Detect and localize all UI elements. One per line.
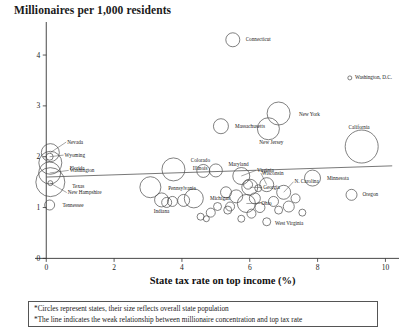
state-label: Illinois: [193, 165, 208, 171]
bubble-california[interactable]: [345, 130, 378, 163]
footnote-circles: *Circles represent states, their size re…: [34, 304, 372, 315]
bubble-unlabeled[interactable]: [203, 216, 209, 222]
state-label: Massachusetts: [235, 123, 265, 129]
bubble-florida[interactable]: [39, 151, 62, 174]
state-label: N. Carolina: [295, 178, 320, 184]
bubble-connecticut[interactable]: [226, 33, 240, 47]
state-label: Oregon: [363, 191, 379, 197]
state-label: Washington: [70, 167, 95, 173]
bubble-maryland[interactable]: [209, 164, 222, 177]
leader-line: [50, 155, 64, 157]
y-tick-label: 1: [37, 203, 41, 212]
leader-line: [50, 183, 66, 192]
y-tick-label: 2: [37, 152, 41, 161]
bubble-unlabeled[interactable]: [162, 197, 172, 207]
state-label: Nevada: [67, 139, 84, 145]
state-label: Wisconsin: [262, 170, 284, 176]
x-tick-label: 10: [382, 263, 390, 272]
axes-group: 012340246810: [35, 22, 399, 272]
bubble-pennsylvania[interactable]: [140, 177, 161, 198]
bubble-indiana[interactable]: [155, 193, 169, 207]
bubble-massachusetts[interactable]: [213, 119, 228, 134]
bubble-unlabeled[interactable]: [283, 201, 294, 212]
state-label: Wyoming: [65, 152, 86, 158]
y-tick-label: 4: [37, 51, 41, 60]
footnote-trendline: *The line indicates the weak relationshi…: [34, 315, 372, 326]
bubble-texas[interactable]: [36, 168, 65, 197]
leader-line: [284, 182, 294, 193]
bubbles-group: [36, 33, 378, 226]
state-label: Michigan: [210, 195, 230, 201]
bubble-unlabeled[interactable]: [291, 194, 300, 203]
bubble-unlabeled[interactable]: [249, 193, 260, 204]
state-label: West Virginia: [275, 220, 304, 226]
bubble-new-jersey[interactable]: [257, 118, 279, 140]
x-tick-label: 4: [180, 263, 184, 272]
y-tick-label: 0: [37, 254, 41, 263]
x-tick-label: 6: [248, 263, 252, 272]
bubble-west-virginia[interactable]: [263, 218, 271, 226]
y-tick-label: 3: [37, 101, 41, 110]
state-label: Minnesota: [327, 175, 350, 181]
state-label: Connecticut: [246, 36, 272, 42]
footnote-box: *Circles represent states, their size re…: [28, 301, 378, 327]
x-axis-title: State tax rate on top income (%): [150, 275, 296, 287]
state-label: Colorado: [191, 157, 211, 163]
state-label: Pennsylvania: [168, 185, 196, 191]
bubble-unlabeled[interactable]: [214, 203, 222, 211]
state-label: Georgia: [263, 184, 280, 190]
state-label: Tennessee: [62, 202, 84, 208]
state-label: New York: [299, 111, 320, 117]
state-label: New Jersey: [259, 139, 283, 145]
state-label: Indiana: [154, 208, 170, 214]
bubble-illinois[interactable]: [162, 158, 185, 181]
bubble-unlabeled[interactable]: [178, 194, 190, 206]
axis-titles-group: State tax rate on top income (%): [150, 275, 296, 287]
state-label: Maryland: [228, 161, 249, 167]
bubble-unlabeled[interactable]: [299, 209, 306, 216]
chart-page: Millionaires per 1,000 residents 0123402…: [0, 0, 408, 336]
scatter-plot: 012340246810 ConnecticutWashington, D.C.…: [0, 0, 408, 336]
bubble-washington-d-c[interactable]: [348, 76, 352, 80]
x-tick-label: 2: [112, 263, 116, 272]
x-tick-label: 8: [316, 263, 320, 272]
x-tick-label: 0: [44, 263, 48, 272]
bubble-oregon[interactable]: [346, 189, 357, 200]
state-label: New Hampshire: [68, 189, 103, 195]
bubble-new-york[interactable]: [267, 102, 290, 125]
state-label: Washington, D.C.: [355, 74, 392, 80]
labels-group: ConnecticutWashington, D.C.New YorkNew J…: [50, 36, 392, 225]
bubble-unlabeled[interactable]: [275, 206, 283, 214]
bubble-unlabeled[interactable]: [238, 215, 245, 222]
state-label: Ohio: [261, 200, 272, 206]
state-label: California: [349, 124, 371, 130]
